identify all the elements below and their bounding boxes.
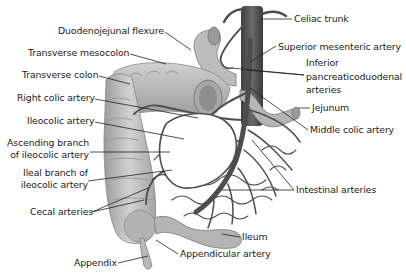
label-inferior-pancreaticoduodenal-line2: pancreaticoduodenal [306,71,402,83]
label-transverse-colon: Transverse colon [22,69,99,81]
label-celiac-trunk: Celiac trunk [294,13,349,25]
ileum-shape [154,216,242,248]
label-inferior-pancreaticoduodenal-line1: Inferior [306,57,339,69]
label-ascending-branch-line1: Ascending branch [7,137,89,149]
label-inferior-pancreaticoduodenal-line3: arteries [306,84,341,96]
ileocolic-arcade [160,113,237,188]
label-duodenojejunal-flexure: Duodenojejunal flexure [58,25,164,37]
label-right-colic-artery: Right colic artery [17,92,95,104]
label-superior-mesenteric-artery: Superior mesenteric artery [278,41,401,53]
label-ileocolic-artery: Ileocolic artery [27,115,94,127]
label-middle-colic-artery: Middle colic artery [310,124,394,136]
label-cecal-arteries: Cecal arteries [30,206,93,218]
label-ileum: Ileum [242,231,268,243]
label-appendix: Appendix [74,257,117,269]
label-ascending-branch-line2: of ileocolic artery [10,149,89,161]
label-jejunum: Jejunum [312,102,349,114]
label-ileal-branch-line2: ileocolic artery [21,179,88,191]
appendix-shape [140,238,152,269]
label-intestinal-arteries: Intestinal arteries [296,184,376,196]
label-transverse-mesocolon: Transverse mesocolon [28,47,129,59]
label-ileal-branch-line1: Ileal branch of [23,167,88,179]
label-appendicular-artery: Appendicular artery [180,248,271,260]
